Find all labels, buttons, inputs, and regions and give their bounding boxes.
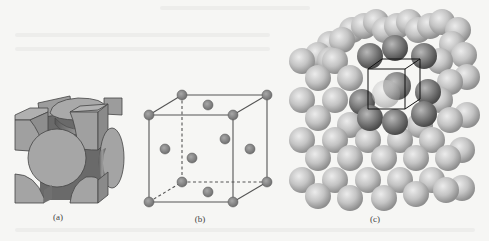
corner-atom: [262, 177, 272, 187]
face-center-atom: [220, 134, 230, 144]
corner-atom: [262, 90, 272, 100]
fcc-figure: (a): [0, 0, 489, 241]
face-center-atom: [245, 144, 255, 154]
corner-atom: [144, 110, 154, 120]
panel-b-atoms: [144, 90, 272, 207]
panel-a-label: (a): [53, 212, 63, 222]
face-center-atom: [160, 144, 170, 154]
corner-atom: [177, 177, 187, 187]
fcc-illustrations: (a): [0, 0, 489, 241]
face-center-atom: [203, 100, 213, 110]
corner-atom: [228, 110, 238, 120]
panel-b-label: (b): [195, 214, 206, 224]
corner-atom: [144, 197, 154, 207]
panel-c-label: (c): [370, 214, 380, 224]
panel-a-hard-sphere-cell: [15, 96, 124, 203]
corner-atom: [228, 197, 238, 207]
face-center-atom: [187, 153, 197, 163]
face-center-atom: [203, 187, 213, 197]
panel-c-atom-aggregate: [289, 9, 480, 211]
corner-atom: [177, 90, 187, 100]
